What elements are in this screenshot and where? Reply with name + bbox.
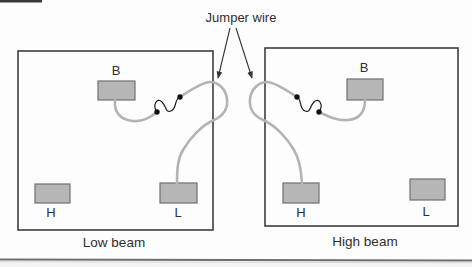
low-beam-wire-coil xyxy=(155,97,180,112)
high-beam-terminal-h xyxy=(283,183,319,203)
high-beam-connection-dot-2 xyxy=(294,94,299,99)
low-beam-terminal-l-label: L xyxy=(174,205,181,220)
low-beam-wire-b-segment xyxy=(115,100,157,121)
headlight-jumper-wiring-diagram: B H L Low beam B H L High beam xyxy=(0,0,472,267)
low-beam-caption: Low beam xyxy=(83,235,145,250)
high-beam-wire-loop-to-h xyxy=(250,82,302,183)
high-beam-terminal-l-label: L xyxy=(422,204,429,219)
callout-arrow-left xyxy=(218,28,230,78)
callout-arrow-right xyxy=(236,28,252,78)
low-beam-terminal-l xyxy=(160,183,197,203)
low-beam-terminal-h xyxy=(35,184,70,203)
high-beam-terminal-l xyxy=(410,179,445,200)
low-beam-terminal-b-label: B xyxy=(112,63,121,78)
high-beam-wire-coil xyxy=(297,97,321,112)
low-beam-terminal-b xyxy=(98,81,135,100)
separator-line xyxy=(0,260,472,261)
scan-artifact-line xyxy=(0,0,42,3)
jumper-wire-label: Jumper wire xyxy=(206,10,277,25)
high-beam-terminal-b xyxy=(347,79,383,100)
high-beam-wire-b-segment xyxy=(319,100,365,120)
high-beam-terminal-h-label: H xyxy=(296,205,305,220)
high-beam-connection-dot-1 xyxy=(316,109,321,114)
low-beam-wire-loop-to-l xyxy=(177,82,227,184)
page-bottom-rule xyxy=(0,260,472,267)
high-beam-terminal-b-label: B xyxy=(360,60,369,75)
low-beam-terminal-h-label: H xyxy=(46,205,55,220)
low-beam-connection-dot-2 xyxy=(177,94,182,99)
figure-canvas: B H L Low beam B H L High beam xyxy=(0,0,472,267)
low-beam-connection-dot-1 xyxy=(154,109,159,114)
high-beam-caption: High beam xyxy=(332,234,397,249)
